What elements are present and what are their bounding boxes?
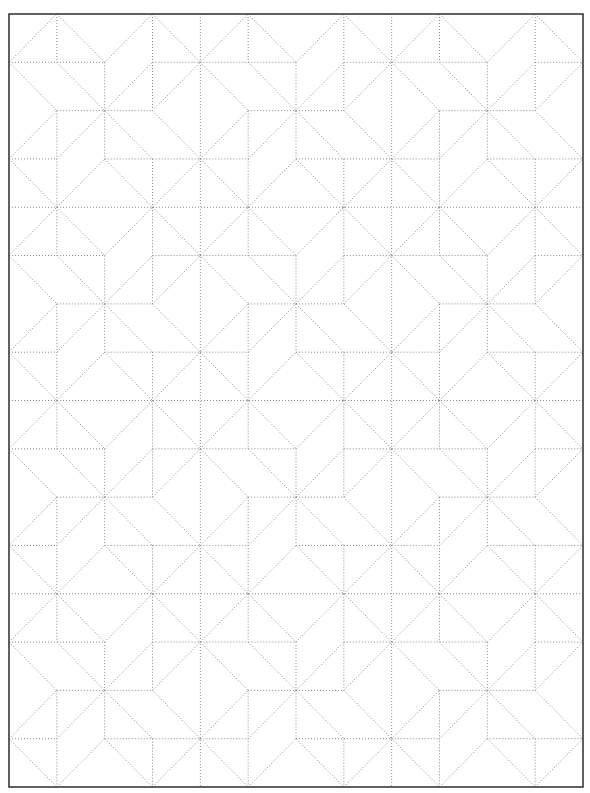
pattern-line: [200, 545, 248, 593]
pattern-line: [487, 159, 535, 207]
pattern-line: [344, 497, 392, 545]
pattern-line: [344, 594, 392, 642]
pattern-line: [105, 642, 153, 690]
pattern-line: [535, 449, 583, 497]
pattern-line: [535, 642, 583, 690]
pattern-line: [248, 497, 296, 545]
pattern-line: [392, 545, 440, 593]
pattern-line: [9, 352, 57, 400]
pattern-line: [248, 159, 296, 207]
pattern-line: [248, 62, 296, 110]
pattern-line: [9, 449, 57, 497]
pattern-line: [440, 111, 488, 159]
pattern-line: [9, 690, 57, 738]
pattern-line: [200, 62, 248, 110]
pattern-line: [57, 545, 105, 593]
pattern-line: [392, 207, 440, 255]
pattern-line: [200, 304, 248, 352]
pattern-line: [296, 401, 344, 449]
pattern-line: [248, 739, 296, 787]
pattern-line: [344, 739, 392, 787]
pattern-line: [57, 642, 105, 690]
pattern-line: [440, 594, 488, 642]
pattern-line: [535, 594, 583, 642]
pattern-line: [487, 207, 535, 255]
pattern-line: [153, 207, 201, 255]
pattern-line: [487, 304, 535, 352]
pattern-line: [487, 401, 535, 449]
pattern-line: [57, 159, 105, 207]
pattern-line: [296, 62, 344, 110]
pattern-line: [9, 401, 57, 449]
pattern-line: [344, 256, 392, 304]
pattern-line: [57, 111, 105, 159]
pattern-line: [153, 62, 201, 110]
pattern-line: [487, 545, 535, 593]
pattern-line: [535, 256, 583, 304]
pattern-line: [9, 111, 57, 159]
pattern-line: [392, 401, 440, 449]
pattern-line: [9, 159, 57, 207]
pattern-line: [344, 449, 392, 497]
pattern-line: [535, 304, 583, 352]
pattern-line: [105, 207, 153, 255]
pattern-line: [344, 14, 392, 62]
pattern-line: [535, 497, 583, 545]
pattern-line: [296, 594, 344, 642]
pattern-line: [153, 14, 201, 62]
quilt-pattern-canvas: [0, 0, 590, 793]
pattern-line: [535, 352, 583, 400]
pattern-line: [105, 449, 153, 497]
pattern-line: [105, 690, 153, 738]
pattern-line: [200, 690, 248, 738]
pattern-line: [9, 14, 57, 62]
pattern-line: [440, 256, 488, 304]
pattern-line: [153, 497, 201, 545]
pattern-line: [105, 256, 153, 304]
pattern-line: [440, 14, 488, 62]
pattern-line: [248, 449, 296, 497]
pattern-line: [487, 497, 535, 545]
pattern-line: [296, 111, 344, 159]
pattern-line: [153, 111, 201, 159]
pattern-line: [153, 690, 201, 738]
pattern-line: [487, 449, 535, 497]
pattern-line: [153, 594, 201, 642]
pattern-line: [487, 256, 535, 304]
pattern-line: [392, 14, 440, 62]
pattern-line: [248, 207, 296, 255]
pattern-line: [9, 739, 57, 787]
pattern-line: [440, 690, 488, 738]
pattern-line: [392, 594, 440, 642]
pattern-line: [392, 642, 440, 690]
pattern-line: [200, 497, 248, 545]
pattern-line: [200, 642, 248, 690]
pattern-line: [57, 352, 105, 400]
pattern-line: [9, 256, 57, 304]
pattern-line: [344, 642, 392, 690]
pattern-line: [344, 207, 392, 255]
pattern-line: [392, 352, 440, 400]
pattern-line: [105, 352, 153, 400]
pattern-line: [200, 207, 248, 255]
pattern-line: [248, 304, 296, 352]
pattern-line: [105, 401, 153, 449]
pattern-line: [344, 111, 392, 159]
pattern-line: [535, 159, 583, 207]
pattern-line: [440, 159, 488, 207]
pattern-line: [440, 62, 488, 110]
pattern-line: [248, 14, 296, 62]
pattern-line: [487, 739, 535, 787]
pattern-line: [105, 111, 153, 159]
pattern-line: [296, 497, 344, 545]
pattern-line: [248, 690, 296, 738]
pattern-line: [296, 545, 344, 593]
pattern-line: [153, 449, 201, 497]
pattern-line: [487, 594, 535, 642]
pattern-line: [392, 62, 440, 110]
pattern-line: [57, 14, 105, 62]
pattern-line: [9, 642, 57, 690]
pattern-line: [535, 111, 583, 159]
pattern-line: [487, 14, 535, 62]
pattern-line: [9, 62, 57, 110]
